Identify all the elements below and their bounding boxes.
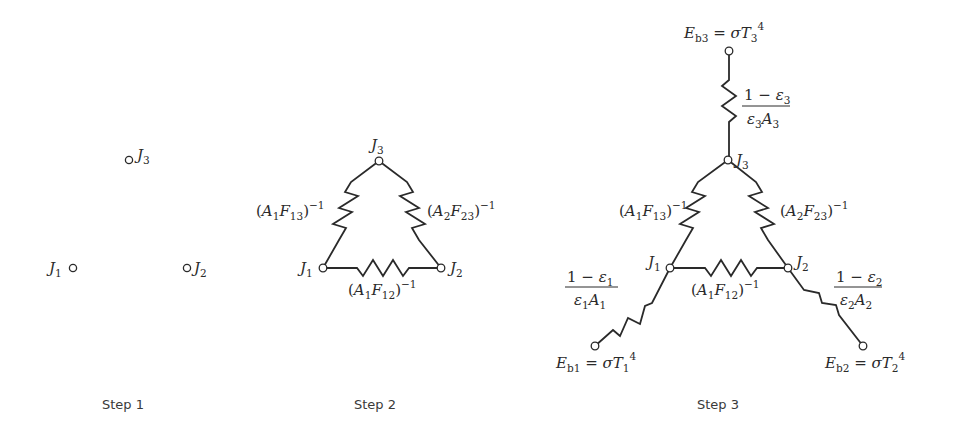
fraction-surface-1: 1 − ε1 ε1A1 [565,268,618,311]
label-j2-step3: J2 [793,253,809,273]
fraction-3-numerator: 1 − ε3 [744,86,790,106]
label-j1-step2: J1 [297,259,313,279]
resistor-eb3-j3-step3 [722,55,736,160]
label-a2f23-step3: (A2F23)−1 [780,199,849,222]
node-j3-step3 [724,156,732,164]
node-j1-step3 [666,264,674,272]
label-a1f13-step2: (A1F13)−1 [256,199,325,222]
node-eb3-step3 [725,47,733,55]
node-eb2-step3 [859,342,867,350]
fraction-surface-3: 1 − ε3 ε3A3 [742,86,790,130]
fraction-2-denominator: ε2A2 [840,291,872,311]
node-j3-step2 [375,157,383,165]
fraction-2-numerator: 1 − ε2 [836,268,882,288]
fraction-3-denominator: ε3A3 [747,110,779,130]
radiation-network-diagram: J3 J1 J2 Step 1 J3 J1 J2 (A1F13)−1 (A2F2… [0,0,955,435]
node-j1-step2 [319,264,327,272]
node-j2-step2 [437,264,445,272]
label-j1-step3: J1 [645,253,661,273]
label-j3-step1: J3 [134,146,150,166]
label-eb3-step3: Eb3 = σT34 [683,20,764,44]
fraction-surface-2: 1 − ε2 ε2A2 [834,268,882,311]
label-a1f13-step3: (A1F13)−1 [619,199,688,222]
fraction-1-numerator: 1 − ε1 [567,268,613,288]
resistor-j1-j2-step3 [670,260,788,276]
fraction-1-denominator: ε1A1 [574,291,606,311]
label-eb1-step3: Eb1 = σT14 [555,350,636,374]
label-j2-step1: J2 [191,259,207,279]
step-2-panel: J3 J1 J2 (A1F13)−1 (A2F23)−1 (A1F12)−1 S… [256,136,496,412]
resistor-j2-j3-step3 [728,160,788,268]
resistor-j1-j3-step3 [670,160,728,268]
node-j2-step1 [183,264,190,271]
label-j2-step2: J2 [447,259,463,279]
label-j3-step2: J3 [368,136,384,156]
label-a2f23-step2: (A2F23)−1 [427,199,496,222]
node-eb1-step3 [591,342,599,350]
node-j1-step1 [69,264,76,271]
resistor-j1-j2-step2 [323,260,441,276]
step-1-panel: J3 J1 J2 Step 1 [46,146,207,412]
node-j2-step3 [784,264,792,272]
step-3-panel: J3 J1 J2 Eb3 = σT34 Eb1 = σT14 Eb2 = σT2… [555,20,905,412]
label-eb2-step3: Eb2 = σT24 [824,350,905,374]
caption-step-1: Step 1 [102,397,144,412]
node-j3-step1 [125,156,132,163]
label-a1f12-step3: (A1F12)−1 [691,278,760,301]
resistor-j1-j3-step2 [323,161,379,268]
label-j3-step3: J3 [733,151,749,171]
label-a1f12-step2: (A1F12)−1 [348,278,417,301]
caption-step-2: Step 2 [354,397,396,412]
caption-step-3: Step 3 [697,397,739,412]
label-j1-step1: J1 [46,259,62,279]
